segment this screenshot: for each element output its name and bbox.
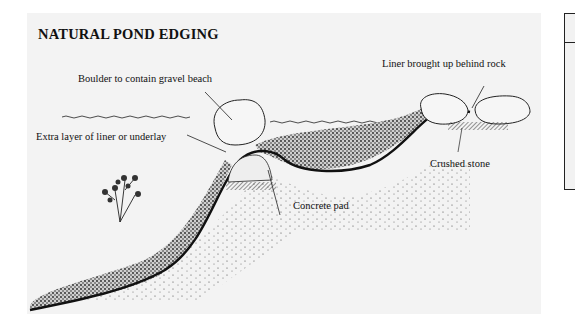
rock-left xyxy=(421,94,468,125)
side-panel-header-divider xyxy=(565,42,575,43)
label-extra-liner: Extra layer of liner or underlay xyxy=(36,131,166,142)
crushed-stone xyxy=(448,122,508,130)
label-concrete-pad: Concrete pad xyxy=(293,200,349,211)
side-panel-partial xyxy=(564,13,575,190)
boulder xyxy=(214,100,265,145)
concrete-pad xyxy=(228,155,272,182)
label-crushed-stone: Crushed stone xyxy=(430,158,490,169)
label-liner-behind-rock: Liner brought up behind rock xyxy=(382,58,506,69)
label-boulder: Boulder to contain gravel beach xyxy=(78,73,212,84)
concrete-pad-base xyxy=(226,182,276,190)
diagram-title: NATURAL POND EDGING xyxy=(38,26,219,43)
rock-right xyxy=(475,96,530,124)
